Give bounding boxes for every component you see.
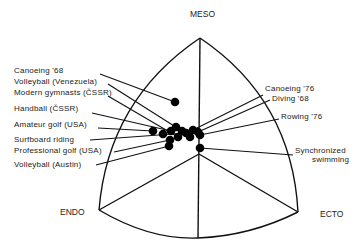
somatotype-point — [171, 98, 180, 107]
leader-line — [200, 119, 279, 135]
somatotype-point — [196, 131, 205, 140]
somatotype-point — [174, 133, 183, 142]
somatochart: Canoeing '68Volleyball (Venezuela)Modern… — [0, 0, 358, 248]
leader-lines — [90, 74, 293, 165]
athlete-group-label: Amateur golf (USA) — [14, 120, 87, 129]
somatotype-point — [186, 133, 195, 142]
axis-label-ecto: ECTO — [320, 209, 344, 219]
athlete-group-label: Volleyball (Venezuela) — [14, 77, 97, 86]
athlete-group-label: Handball (ČSSR) — [14, 104, 78, 113]
labels: Canoeing '68Volleyball (Venezuela)Modern… — [14, 66, 349, 169]
athlete-group-label: Rowing '76 — [281, 112, 323, 121]
athlete-group-label: Canoeing '68 — [14, 66, 64, 75]
somatotype-point — [196, 144, 205, 153]
leader-line — [114, 140, 170, 152]
axis-label-meso: MESO — [190, 9, 215, 19]
left-arc — [99, 38, 200, 210]
endo-axis — [99, 154, 199, 210]
somatotype-point — [172, 123, 181, 132]
somatotype-point — [165, 142, 174, 151]
leader-line — [198, 100, 270, 132]
somatotype-point — [149, 127, 158, 136]
leader-line — [96, 146, 169, 165]
axis-label-endo: ENDO — [60, 207, 85, 217]
athlete-group-label: Canoeing '76 — [265, 84, 315, 93]
athlete-group-label: Surfboard riding — [14, 135, 74, 144]
athlete-group-label: swimming — [312, 155, 349, 164]
ecto-axis — [199, 154, 298, 212]
somatotype-point — [159, 130, 168, 139]
leader-line — [200, 148, 293, 155]
athlete-group-label: Volleyball (Austin) — [14, 160, 82, 169]
athlete-group-label: Diving '68 — [272, 94, 309, 103]
athlete-group-label: Professional golf (USA) — [14, 146, 102, 155]
leader-line — [98, 128, 153, 131]
athlete-group-label: Synchronized — [295, 146, 346, 155]
athlete-group-label: Modern gymnasts (ČSSR) — [14, 88, 112, 97]
